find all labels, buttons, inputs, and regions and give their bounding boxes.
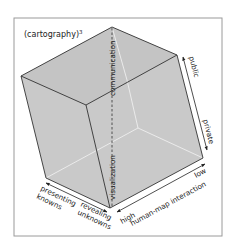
cartography-cube-diagram: (cartography)3 communication visualizati…	[0, 0, 232, 246]
label-visualization: visualization	[108, 155, 117, 200]
label-communication: communication	[108, 40, 117, 96]
diagram-title: (cartography)3	[24, 29, 83, 39]
